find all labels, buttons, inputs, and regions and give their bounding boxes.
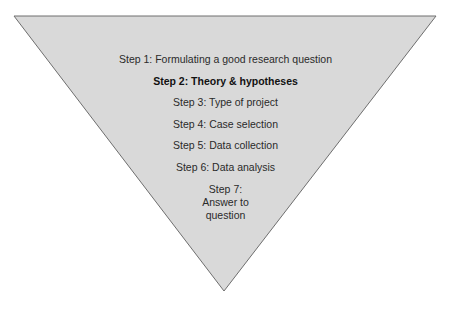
step-2-label: Step 2: Theory & hypotheses: [0, 75, 451, 88]
step-4-label: Step 4: Case selection: [0, 118, 451, 131]
inverted-triangle-funnel: [0, 0, 451, 309]
step-5-label: Step 5: Data collection: [0, 139, 451, 152]
step-7-label-line-1: Step 7:: [0, 183, 451, 196]
step-3-label: Step 3: Type of project: [0, 96, 451, 109]
step-6-label: Step 6: Data analysis: [0, 161, 451, 174]
step-1-label: Step 1: Formulating a good research ques…: [0, 53, 451, 66]
step-7-label-line-3: question: [0, 209, 451, 222]
step-7-label-line-2: Answer to: [0, 196, 451, 209]
